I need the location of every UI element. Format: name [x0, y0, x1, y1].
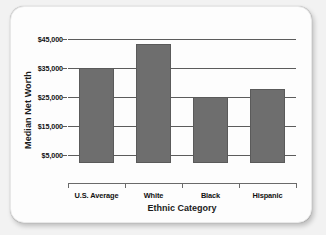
bar — [193, 97, 228, 163]
x-axis-category-label: White — [144, 191, 164, 200]
y-axis-tick — [62, 126, 67, 127]
x-axis-tick — [182, 183, 183, 188]
chart-card: $45,000$35,000$25,000$15,000$5,000 Media… — [10, 6, 312, 223]
y-axis-tick — [62, 68, 67, 69]
x-axis-tick — [125, 183, 126, 188]
y-axis-tick — [62, 39, 67, 40]
bar — [250, 89, 285, 163]
x-axis-tick — [68, 183, 69, 188]
bar-chart: $45,000$35,000$25,000$15,000$5,000 Media… — [11, 7, 311, 222]
y-axis-title: Median Net Worth — [23, 55, 33, 165]
x-axis-category-label: Black — [201, 191, 220, 200]
bar — [79, 68, 114, 163]
y-axis-tick — [62, 155, 67, 156]
y-axis-tick — [62, 97, 67, 98]
x-axis-tick — [296, 183, 297, 188]
y-axis-tick-labels: $45,000$35,000$25,000$15,000$5,000 — [11, 7, 63, 222]
plot-area — [68, 27, 296, 169]
bar — [136, 44, 171, 163]
y-axis-tick-label: $45,000 — [17, 34, 63, 43]
x-axis-title: Ethnic Category — [68, 203, 296, 213]
gridline — [68, 39, 296, 40]
x-axis-category-label: Hispanic — [252, 191, 282, 200]
x-axis-category-label: U.S. Average — [75, 191, 119, 200]
x-axis-tick — [239, 183, 240, 188]
